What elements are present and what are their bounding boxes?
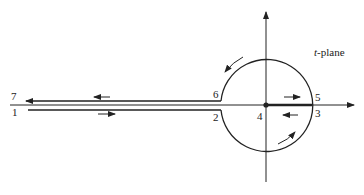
point-label-4: 4 [257, 111, 263, 122]
point-label-5: 5 [315, 92, 321, 103]
point-label-3: 3 [315, 108, 321, 119]
keyhole-contour-diagram [0, 0, 364, 195]
plane-suffix: -plane [317, 46, 344, 58]
arrow-ccw-upper [225, 57, 243, 72]
origin-dot [263, 102, 268, 107]
plane-label: t-plane [314, 47, 345, 58]
point-label-7: 7 [11, 91, 17, 102]
point-label-2: 2 [213, 112, 219, 123]
point-label-1: 1 [12, 107, 18, 118]
point-label-6: 6 [213, 89, 219, 100]
arrow-ccw-lower [278, 132, 295, 144]
